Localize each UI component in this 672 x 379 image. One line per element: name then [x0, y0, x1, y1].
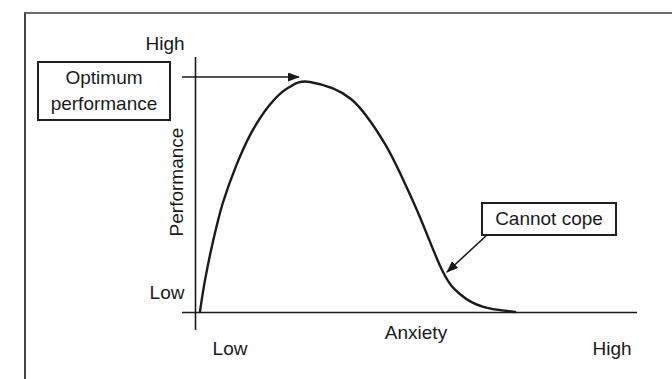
x-axis-low-label: Low: [213, 339, 248, 358]
performance-curve: [200, 82, 515, 312]
x-axis-title: Anxiety: [385, 323, 447, 342]
cannot-cope-callout-label: Cannot cope: [495, 206, 603, 232]
y-axis-title: Performance: [167, 128, 186, 237]
optimum-performance-callout: Optimum performance: [37, 61, 171, 121]
y-axis-high-label: High: [145, 34, 184, 53]
figure-root: High Performance Low Low Anxiety High Op…: [0, 0, 672, 379]
plot-canvas: [0, 0, 672, 379]
optimum-performance-callout-label: Optimum performance: [39, 65, 169, 116]
cannot-cope-arrow: [447, 235, 487, 272]
y-axis-low-label: Low: [150, 283, 185, 302]
x-axis-high-label: High: [592, 339, 631, 358]
cannot-cope-callout: Cannot cope: [481, 202, 617, 236]
